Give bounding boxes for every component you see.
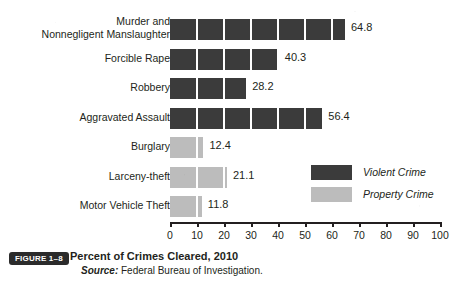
bar-value-label: 11.8 — [208, 198, 229, 210]
x-axis-tick-label: 100 — [431, 229, 449, 241]
x-axis-tick-label: 40 — [272, 229, 284, 241]
bar-segment-divider — [196, 167, 198, 188]
x-axis-tick-label: 70 — [353, 229, 365, 241]
x-axis-tick — [332, 222, 334, 227]
x-axis-tick-label: 90 — [407, 229, 419, 241]
bar-violent — [170, 49, 279, 70]
bar-segment-divider — [277, 108, 279, 129]
x-axis-tick — [440, 222, 442, 227]
bar-segment-divider — [223, 167, 225, 188]
bar-segment-divider — [250, 19, 252, 40]
bar-segment-divider — [277, 19, 279, 40]
bar-segment-divider — [196, 49, 198, 70]
legend-swatch-violent-crime — [311, 165, 352, 180]
bar-property — [170, 196, 202, 217]
bar-value-label: 21.1 — [233, 169, 254, 181]
figure-source: Source: Federal Bureau of Investigation. — [81, 265, 263, 276]
category-label: Forcible Rape — [0, 52, 170, 65]
chart-row: Aggravated Assault56.4 — [0, 107, 461, 137]
category-label: Motor Vehicle Theft — [0, 199, 170, 212]
bar-segment-divider — [331, 19, 333, 40]
bar-segment-divider — [196, 196, 198, 217]
bar-value-label: 64.8 — [351, 21, 372, 33]
bar-segment-divider — [196, 78, 198, 99]
bar-violent — [170, 19, 345, 40]
x-axis-tick — [386, 222, 388, 227]
bar-property — [170, 137, 203, 158]
source-value: Federal Bureau of Investigation. — [118, 265, 263, 276]
bar-violent — [170, 108, 322, 129]
bar-segment-divider — [223, 49, 225, 70]
x-axis-tick-label: 30 — [245, 229, 257, 241]
chart-row: Murder and Nonnegligent Manslaughter64.8 — [0, 18, 461, 48]
x-axis-tick-label: 20 — [218, 229, 230, 241]
bar-segment-divider — [304, 108, 306, 129]
figure-container: Murder and Nonnegligent Manslaughter64.8… — [0, 0, 461, 282]
figure-number-badge: FIGURE 1–8 — [9, 252, 69, 265]
bar-segment-divider — [223, 19, 225, 40]
category-label: Larceny-theft — [0, 170, 170, 183]
bar-segment-divider — [196, 108, 198, 129]
bar-segment-divider — [277, 49, 279, 70]
bar-violent — [170, 78, 246, 99]
x-axis-tick-label: 0 — [167, 229, 173, 241]
bar-value-label: 56.4 — [328, 110, 349, 122]
bar-value-label: 28.2 — [252, 80, 273, 92]
x-axis-tick — [278, 222, 280, 227]
bar-property — [170, 167, 227, 188]
category-label: Burglary — [0, 140, 170, 153]
category-label: Aggravated Assault — [0, 111, 170, 124]
x-axis-tick — [305, 222, 307, 227]
bar-segment-divider — [223, 108, 225, 129]
x-axis-tick — [224, 222, 226, 227]
chart-plot-area: Murder and Nonnegligent Manslaughter64.8… — [0, 0, 461, 245]
x-axis-tick — [251, 222, 253, 227]
x-axis-tick — [197, 222, 199, 227]
category-label: Robbery — [0, 81, 170, 94]
legend-label-violent-crime: Violent Crime — [363, 166, 426, 178]
legend-item-violent-crime: Violent Crime — [311, 163, 456, 185]
bar-segment-divider — [196, 19, 198, 40]
legend-item-property-crime: Property Crime — [311, 185, 456, 207]
legend-label-property-crime: Property Crime — [363, 188, 434, 200]
chart-legend: Violent Crime Property Crime — [311, 163, 456, 207]
bar-segment-divider — [223, 78, 225, 99]
x-axis-tick-label: 80 — [380, 229, 392, 241]
figure-caption: FIGURE 1–8 Percent of Crimes Cleared, 20… — [0, 248, 461, 282]
chart-row: Robbery28.2 — [0, 77, 461, 107]
x-axis-tick — [359, 222, 361, 227]
x-axis-tick — [413, 222, 415, 227]
x-axis-tick-label: 50 — [299, 229, 311, 241]
bar-segment-divider — [250, 49, 252, 70]
category-label: Murder and Nonnegligent Manslaughter — [0, 15, 170, 40]
chart-row: Burglary12.4 — [0, 136, 461, 166]
legend-swatch-property-crime — [311, 187, 352, 202]
source-label: Source: — [81, 265, 118, 276]
x-axis-tick-label: 10 — [191, 229, 203, 241]
chart-row: Forcible Rape40.3 — [0, 48, 461, 78]
x-axis-tick-label: 60 — [326, 229, 338, 241]
figure-title: Percent of Crimes Cleared, 2010 — [70, 250, 238, 262]
bar-segment-divider — [196, 137, 198, 158]
bar-value-label: 12.4 — [209, 139, 230, 151]
bar-value-label: 40.3 — [285, 51, 306, 63]
x-axis-tick — [170, 222, 172, 227]
bar-segment-divider — [250, 108, 252, 129]
bar-segment-divider — [304, 19, 306, 40]
